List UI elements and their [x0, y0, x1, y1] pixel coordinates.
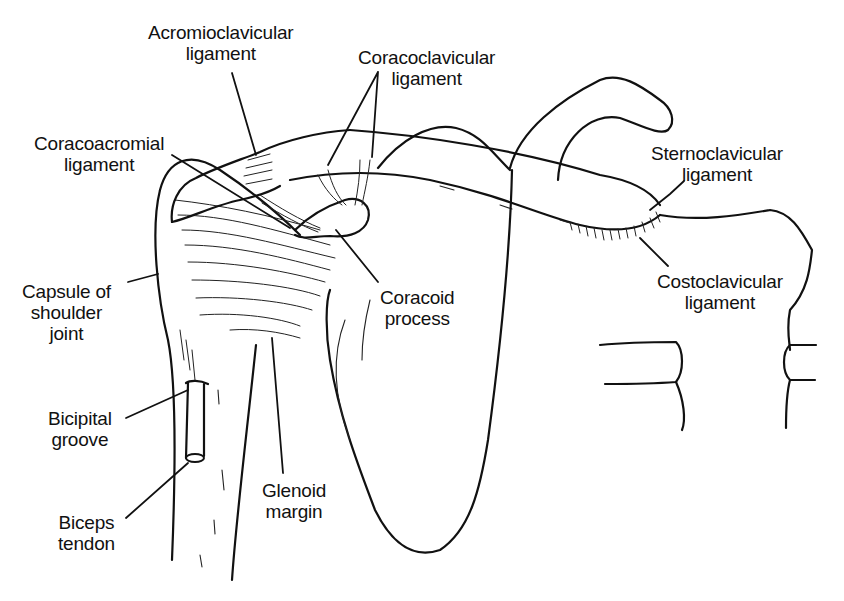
joint-capsule: [160, 160, 335, 380]
label-acromioclavicular-ligament: Acromioclavicular ligament: [148, 22, 293, 64]
label-costoclavicular-ligament: Costoclavicular ligament: [657, 271, 783, 313]
label-glenoid-margin: Glenoid margin: [262, 480, 326, 522]
clavicle: [290, 130, 660, 229]
label-coracoid-process: Coracoid process: [380, 287, 454, 329]
scapula: [327, 127, 512, 553]
label-capsule-of-shoulder-joint: Capsule of shoulder joint: [22, 281, 111, 344]
label-coracoclavicular-ligament: Coracoclavicular ligament: [358, 47, 495, 89]
rib-sternum: [510, 78, 816, 430]
label-bicipital-groove: Bicipital groove: [48, 408, 112, 450]
coracoid: [260, 160, 370, 238]
label-coracoacromial-ligament: Coracoacromial ligament: [34, 133, 164, 175]
biceps-tendon-shape: [186, 381, 208, 462]
label-biceps-tendon: Biceps tendon: [58, 512, 115, 554]
label-sternoclavicular-ligament: Sternoclavicular ligament: [651, 143, 783, 185]
anatomy-diagram: Acromioclavicular ligament Coracoclavicu…: [0, 0, 844, 601]
humerus: [155, 190, 256, 580]
